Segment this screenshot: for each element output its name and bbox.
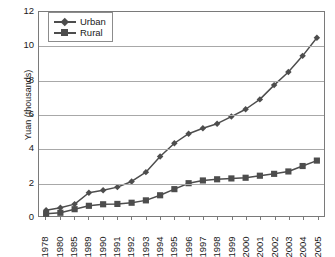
x-tick-label: 2002	[269, 236, 279, 257]
x-tick-label: 1990	[97, 236, 107, 257]
x-tick-mark	[203, 217, 204, 220]
x-tick-mark	[289, 217, 290, 220]
x-tick-mark	[103, 217, 104, 220]
x-tick-mark	[217, 217, 218, 220]
x-tick-label: 1997	[198, 236, 208, 257]
data-point-rural	[100, 201, 106, 207]
x-tick-label: 1998	[212, 236, 222, 257]
rural-marker-icon	[53, 27, 77, 38]
y-tick-label: 2	[14, 178, 34, 188]
data-point-rural	[72, 206, 78, 212]
data-point-rural	[43, 211, 49, 217]
data-point-rural	[171, 186, 177, 192]
x-tick-label: 1993	[140, 236, 150, 257]
data-point-rural	[243, 175, 249, 181]
x-tick-mark	[117, 217, 118, 220]
data-point-rural	[257, 173, 263, 179]
x-tick-mark	[60, 217, 61, 220]
gridline	[39, 149, 324, 150]
legend-item-urban: Urban	[53, 16, 106, 27]
x-tick-mark	[88, 217, 89, 220]
y-tick-label: 10	[14, 40, 34, 50]
y-tick-label: 12	[14, 6, 34, 16]
data-point-rural	[57, 210, 63, 216]
gridline	[39, 46, 324, 47]
x-tick-label: 2003	[284, 236, 294, 257]
data-point-rural	[114, 201, 120, 207]
x-tick-label: 2000	[241, 236, 251, 257]
data-point-rural	[271, 171, 277, 177]
x-tick-label: 1999	[226, 236, 236, 257]
chart-container: Yuan (thousands) 024681012 1978198019851…	[0, 0, 335, 257]
x-tick-label: 2005	[312, 236, 322, 257]
gridline	[39, 115, 324, 116]
data-point-rural	[214, 176, 220, 182]
x-tick-mark	[303, 217, 304, 220]
urban-marker-icon	[53, 16, 77, 27]
data-point-rural	[300, 163, 306, 169]
gridline	[39, 81, 324, 82]
x-tick-mark	[246, 217, 247, 220]
data-point-rural	[157, 192, 163, 198]
x-tick-mark	[232, 217, 233, 220]
y-tick-label: 4	[14, 143, 34, 153]
legend-label-urban: Urban	[77, 17, 106, 27]
x-tick-mark	[189, 217, 190, 220]
x-tick-mark	[45, 217, 46, 220]
x-axis-tick-labels: 1978198019851989199019911992199319941995…	[38, 219, 325, 257]
x-tick-mark	[260, 217, 261, 220]
x-tick-label: 1991	[111, 236, 121, 257]
x-tick-label: 2001	[255, 236, 265, 257]
x-tick-mark	[131, 217, 132, 220]
x-tick-label: 1996	[183, 236, 193, 257]
x-tick-mark	[74, 217, 75, 220]
data-point-rural	[228, 175, 234, 181]
data-point-rural	[86, 203, 92, 209]
x-tick-label: 1995	[169, 236, 179, 257]
data-point-rural	[285, 168, 291, 174]
x-tick-mark	[146, 217, 147, 220]
data-point-rural	[200, 177, 206, 183]
x-tick-label: 1978	[40, 236, 50, 257]
legend-item-rural: Rural	[53, 27, 106, 38]
x-tick-mark	[275, 217, 276, 220]
x-tick-mark	[174, 217, 175, 220]
data-point-urban	[114, 184, 120, 190]
series-layer	[39, 12, 324, 216]
data-point-rural	[129, 200, 135, 206]
gridline	[39, 184, 324, 185]
data-point-urban	[214, 120, 220, 126]
chart-legend: Urban Rural	[48, 12, 113, 42]
y-axis-tick-labels: 024681012	[12, 0, 34, 257]
data-point-rural	[143, 197, 149, 203]
x-tick-label: 2004	[298, 236, 308, 257]
x-tick-label: 1989	[83, 236, 93, 257]
x-tick-label: 1994	[154, 236, 164, 257]
y-tick-label: 8	[14, 75, 34, 85]
x-tick-label: 1980	[54, 236, 64, 257]
data-point-urban	[100, 187, 106, 193]
data-point-urban	[200, 125, 206, 131]
x-tick-label: 1992	[126, 236, 136, 257]
y-tick-label: 6	[14, 109, 34, 119]
legend-label-rural: Rural	[77, 28, 103, 38]
x-tick-mark	[160, 217, 161, 220]
x-tick-label: 1985	[68, 236, 78, 257]
x-tick-mark	[318, 217, 319, 220]
data-point-rural	[314, 158, 320, 164]
y-tick-label: 0	[14, 212, 34, 222]
